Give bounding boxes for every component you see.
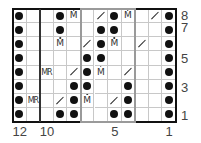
row-label: 3: [181, 81, 188, 94]
stitch-chart: MMMMMRMMRM: [13, 9, 176, 122]
row-label: 5: [181, 52, 188, 65]
divider-line: [39, 9, 41, 122]
outer-frame-right: [134, 8, 177, 123]
column-label: 12: [12, 125, 26, 138]
column-label: 10: [40, 125, 54, 138]
outer-frame-left: [12, 8, 82, 123]
repeat-frame: [80, 8, 136, 123]
row-label: 7: [181, 21, 188, 34]
row-label: 1: [181, 109, 188, 122]
column-label: 1: [166, 125, 173, 138]
column-label: 5: [111, 125, 118, 138]
